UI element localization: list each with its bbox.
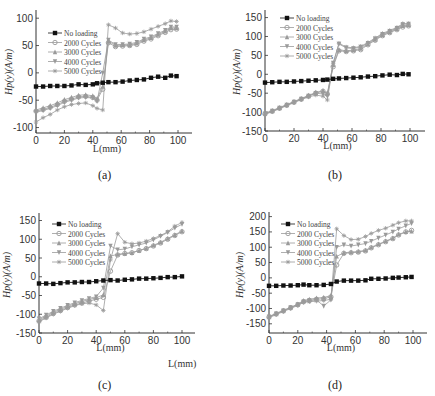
no-loading-marker-icon <box>128 78 132 82</box>
5000-cycles-marker-icon <box>37 320 41 324</box>
5000-cycles-marker-icon <box>396 221 400 225</box>
5000-cycles-marker-icon <box>337 41 341 45</box>
no-loading-marker-icon <box>135 78 139 82</box>
x-tick-label: 20 <box>59 135 71 146</box>
x-axis-label: L(mm) <box>93 143 121 155</box>
5000-cycles-marker-icon <box>142 30 146 34</box>
legend-no-loading-marker-icon <box>53 31 57 35</box>
no-loading-marker-icon <box>149 76 153 80</box>
legend-entry-label: 2000 Cycles <box>297 230 334 239</box>
no-loading-marker-icon <box>373 74 377 78</box>
chart-panel-a: 020406080100-100-50050100L(mm)Hp(y)(A/m)… <box>3 10 192 155</box>
x-tick-label: 20 <box>288 133 300 144</box>
legend-entry-label: 3000 Cycles <box>68 239 105 248</box>
5000-cycles-marker-icon <box>356 237 360 241</box>
y-tick-label: 100 <box>19 234 36 245</box>
5000-cycles-marker-icon <box>292 100 296 104</box>
y-tick-label: 50 <box>251 50 263 61</box>
no-loading-marker-icon <box>113 80 117 84</box>
5000-cycles-marker-icon <box>409 219 413 223</box>
5000-cycles-marker-icon <box>51 312 55 316</box>
series-4000-cycles <box>34 25 179 115</box>
x-tick-label: 0 <box>33 135 39 146</box>
5000-cycles-marker-icon <box>108 258 112 262</box>
4000-cycles-marker-icon <box>108 244 112 249</box>
x-axis-label: L(mm) <box>323 140 351 152</box>
4000-cycles-marker-icon <box>404 224 408 229</box>
5000-cycles-marker-icon <box>376 228 380 232</box>
no-loading-marker-icon <box>274 284 278 288</box>
5000-cycles-marker-icon <box>277 106 281 110</box>
no-loading-marker-icon <box>301 282 305 286</box>
5000-cycles-marker-icon <box>299 97 303 101</box>
legend-entry-label: 3000 Cycles <box>296 33 333 42</box>
5000-cycles-marker-icon <box>270 110 274 114</box>
series-3000-cycles <box>34 25 179 112</box>
x-tick-label: 100 <box>402 133 419 144</box>
legend-entry-label: No loading <box>68 220 102 229</box>
no-loading-marker-icon <box>76 82 80 86</box>
no-loading-marker-icon <box>130 277 134 281</box>
5000-cycles-marker-icon <box>69 102 73 106</box>
no-loading-marker-icon <box>263 80 267 84</box>
no-loading-marker-icon <box>299 79 303 83</box>
5000-cycles-marker-icon <box>329 297 333 301</box>
no-loading-marker-icon <box>87 280 91 284</box>
5000-cycles-marker-icon <box>391 223 395 227</box>
4000-cycles-marker-icon <box>383 233 387 238</box>
no-loading-marker-icon <box>395 73 399 77</box>
no-loading-marker-icon <box>44 281 48 285</box>
legend-entry-label: 2000 Cycles <box>68 230 105 239</box>
5000-cycles-marker-icon <box>120 31 124 35</box>
legend-entry-label: 4000 Cycles <box>297 249 334 258</box>
y-tick-label: 0 <box>260 272 266 283</box>
5000-cycles-marker-icon <box>84 101 88 105</box>
no-loading-marker-icon <box>331 77 335 81</box>
caption-a: (a) <box>98 168 111 183</box>
caption-d: (d) <box>328 378 342 393</box>
series-3000-cycles <box>267 229 414 319</box>
5000-cycles-marker-icon <box>163 21 167 25</box>
5000-cycles-marker-icon <box>58 309 62 313</box>
5000-cycles-marker-icon <box>180 220 184 224</box>
y-tick-label: 100 <box>16 13 33 24</box>
y-tick-label: 150 <box>249 226 266 237</box>
no-loading-marker-icon <box>314 78 318 82</box>
no-loading-marker-icon <box>51 282 55 286</box>
no-loading-marker-icon <box>94 279 98 283</box>
5000-cycles-marker-icon <box>406 21 410 25</box>
y-axis-label: Hp(y)(A/m) <box>231 48 243 96</box>
series-3000-cycles <box>263 23 411 116</box>
4000-cycles-marker-icon <box>322 304 326 309</box>
x-axis-label: L(mm) <box>96 342 124 354</box>
5000-cycles-marker-icon <box>137 241 141 245</box>
chart-panel-b: 020406080100-150-100-50050100150L(mm)Hp(… <box>231 10 425 152</box>
y-tick-label: -50 <box>248 88 263 99</box>
no-loading-marker-icon <box>369 277 373 281</box>
5000-cycles-marker-icon <box>285 103 289 107</box>
5000-cycles-marker-icon <box>123 240 127 244</box>
x-tick-label: 0 <box>266 335 272 346</box>
y-tick-label: -50 <box>252 288 267 299</box>
no-loading-marker-icon <box>101 81 105 85</box>
5000-cycles-marker-icon <box>44 316 48 320</box>
y-tick-label: 150 <box>19 215 36 226</box>
y-tick-label: 200 <box>249 211 266 222</box>
5000-cycles-marker-icon <box>130 242 134 246</box>
no-loading-marker-icon <box>65 280 69 284</box>
no-loading-marker-icon <box>73 280 77 284</box>
no-loading-marker-icon <box>292 79 296 83</box>
no-loading-marker-icon <box>41 84 45 88</box>
x-tick-label: 20 <box>292 335 304 346</box>
caption-c: (c) <box>98 378 111 393</box>
5000-cycles-marker-icon <box>314 93 318 97</box>
5000-cycles-marker-icon <box>342 233 346 237</box>
x-tick-label: 100 <box>174 335 191 346</box>
no-loading-marker-icon <box>37 281 41 285</box>
no-loading-marker-icon <box>337 76 341 80</box>
5000-cycles-marker-icon <box>48 112 52 116</box>
legend-entry-label: 4000 Cycles <box>64 58 101 67</box>
y-tick-label: 0 <box>256 69 262 80</box>
no-loading-marker-icon <box>120 79 124 83</box>
5000-cycles-marker-icon <box>373 36 377 40</box>
